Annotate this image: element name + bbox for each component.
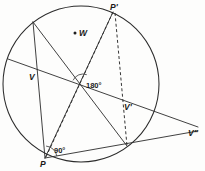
- chord-T-P: [33, 22, 45, 158]
- label-point-W: W: [79, 28, 88, 38]
- dot-W: [74, 32, 77, 35]
- ray-V-Vpp: [8, 59, 198, 127]
- figure-canvas: P P' V V' V" W 180° 90°: [0, 0, 205, 171]
- label-point-Vpp: V": [188, 128, 199, 138]
- label-point-Pp: P': [110, 2, 119, 12]
- label-angle-center: 180°: [86, 81, 102, 90]
- geometry-diagram: P P' V V' V" W 180° 90°: [0, 0, 205, 171]
- ray-P-Vpp: [45, 131, 198, 158]
- point-labels-group: P P' V V' V" W: [29, 2, 199, 169]
- angle-labels-group: 180° 90°: [54, 81, 102, 155]
- ray-T-B: [33, 22, 127, 146]
- label-angle-p: 90°: [54, 146, 65, 155]
- point-dots-group: [74, 32, 77, 35]
- arc-center-angle: [73, 74, 87, 80]
- label-point-Vp: V': [124, 102, 133, 112]
- dash-Pp-B: [115, 13, 127, 146]
- label-point-V: V: [29, 72, 36, 82]
- label-point-P: P: [40, 159, 46, 169]
